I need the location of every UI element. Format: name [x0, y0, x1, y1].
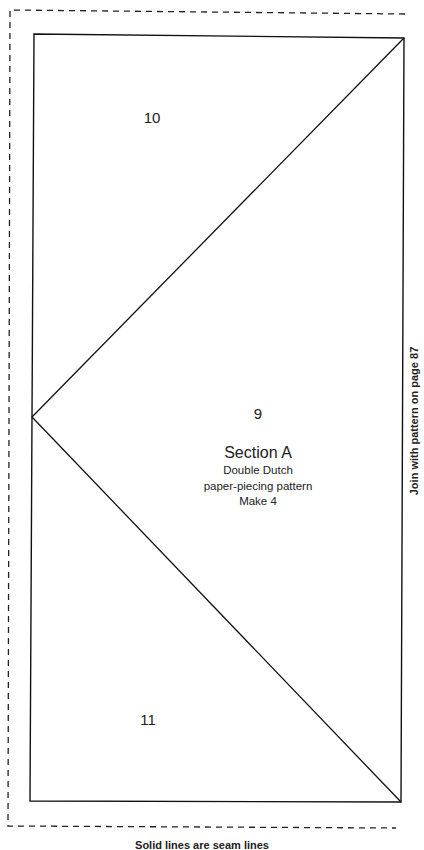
piece-number-11: 11	[140, 711, 156, 728]
piece-number-10: 10	[144, 109, 161, 126]
seam-lines-legend: Solid lines are seam lines	[135, 839, 269, 850]
seam-outline	[30, 34, 404, 802]
pattern-type: paper-piecing pattern	[204, 479, 313, 495]
join-note: Join with pattern on page 87	[408, 347, 420, 496]
seam-line-lower-diagonal	[32, 417, 401, 802]
cutting-line-dashed	[8, 10, 405, 828]
seam-line-upper-diagonal	[32, 38, 404, 417]
piece-number-9: 9	[254, 405, 262, 422]
section-title: Section A	[224, 444, 292, 462]
pattern-name: Double Dutch	[223, 463, 293, 479]
pattern-diagram	[0, 0, 424, 850]
make-count: Make 4	[239, 494, 277, 510]
